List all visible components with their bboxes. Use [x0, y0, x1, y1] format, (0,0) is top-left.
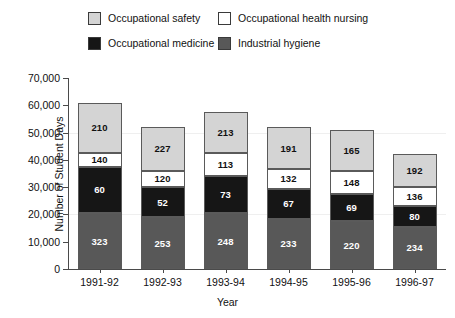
y-axis-tick — [63, 160, 68, 161]
bar-segment[interactable]: 213 — [204, 112, 248, 153]
legend-label-industrial-hygiene: Industrial hygiene — [238, 37, 320, 50]
legend-item-occupational-health-nursing: Occupational health nursing — [218, 12, 368, 25]
x-axis-tick-label: 1992-93 — [143, 276, 182, 288]
bar-segment[interactable]: 191 — [267, 127, 311, 169]
x-axis-tick-label: 1994-95 — [269, 276, 308, 288]
gridline — [69, 133, 446, 134]
bar-segment[interactable]: 233 — [267, 219, 311, 269]
bar-group[interactable]: 25352120227 — [141, 127, 185, 269]
bar-segment[interactable]: 323 — [78, 213, 122, 269]
y-axis-title-wrap: Number of Student Days — [0, 78, 18, 269]
bar-segment[interactable]: 227 — [141, 127, 185, 171]
bar-segment[interactable]: 132 — [267, 169, 311, 188]
bar-segment[interactable]: 73 — [204, 176, 248, 213]
legend-label-occupational-medicine: Occupational medicine — [108, 37, 214, 50]
y-axis-tick — [63, 133, 68, 134]
bar-segment[interactable]: 52 — [141, 187, 185, 217]
bar-group[interactable]: 24873113213 — [204, 112, 248, 269]
y-axis-tick-label: 10,000 — [28, 236, 60, 248]
legend-item-occupational-medicine: Occupational medicine — [88, 37, 214, 50]
y-axis-tick-label: 70,000 — [28, 72, 60, 84]
bar-segment[interactable]: 140 — [78, 153, 122, 167]
bar-group[interactable]: 23480136192 — [393, 154, 437, 269]
chart-legend: Occupational safety Occupational health … — [88, 12, 448, 60]
chart-root: Occupational safety Occupational health … — [0, 0, 455, 318]
y-axis-tick — [63, 187, 68, 188]
bar-segment[interactable]: 210 — [78, 103, 122, 153]
bar-segment[interactable]: 220 — [330, 221, 374, 269]
bar-group[interactable]: 22069148165 — [330, 130, 374, 269]
x-axis-tick — [415, 269, 416, 273]
x-axis-tick-label: 1991-92 — [80, 276, 119, 288]
legend-swatch-occupational-safety — [88, 12, 101, 25]
bar-group[interactable]: 32360140210 — [78, 103, 122, 269]
bar-segment[interactable]: 248 — [204, 213, 248, 269]
x-axis-tick — [226, 269, 227, 273]
y-axis-tick — [63, 269, 68, 270]
gridline — [69, 214, 446, 215]
y-axis-tick — [63, 242, 68, 243]
bar-segment[interactable]: 113 — [204, 153, 248, 176]
bar-segment[interactable]: 67 — [267, 189, 311, 219]
x-axis-title: Year — [0, 296, 455, 308]
bar-group[interactable]: 23367132191 — [267, 127, 311, 269]
y-axis-line — [68, 78, 69, 269]
bar-segment[interactable]: 69 — [330, 194, 374, 221]
legend-label-occupational-health-nursing: Occupational health nursing — [238, 12, 368, 25]
legend-swatch-industrial-hygiene — [218, 37, 231, 50]
x-axis-tick — [289, 269, 290, 273]
x-axis-tick-label: 1995-96 — [332, 276, 371, 288]
y-axis-tick-label: 60,000 — [28, 99, 60, 111]
bar-segment[interactable]: 192 — [393, 154, 437, 187]
x-axis-tick — [352, 269, 353, 273]
y-axis-tick — [63, 105, 68, 106]
bar-segment[interactable]: 136 — [393, 187, 437, 206]
bar-segment[interactable]: 80 — [393, 206, 437, 226]
legend-swatch-occupational-medicine — [88, 37, 101, 50]
bar-segment[interactable]: 253 — [141, 217, 185, 269]
y-axis-tick — [63, 214, 68, 215]
y-axis-tick-label: 30,000 — [28, 181, 60, 193]
bar-segment[interactable]: 120 — [141, 171, 185, 187]
x-axis-tick-label: 1993-94 — [206, 276, 245, 288]
y-axis-tick-label: 40,000 — [28, 154, 60, 166]
y-axis-tick — [63, 78, 68, 79]
legend-item-occupational-safety: Occupational safety — [88, 12, 200, 25]
bar-segment[interactable]: 234 — [393, 227, 437, 269]
y-axis-tick-label: 20,000 — [28, 208, 60, 220]
legend-item-industrial-hygiene: Industrial hygiene — [218, 37, 320, 50]
y-axis-tick-label: 0 — [54, 263, 60, 275]
bar-segment[interactable]: 148 — [330, 171, 374, 194]
x-axis-tick-label: 1996-97 — [395, 276, 434, 288]
legend-swatch-occupational-health-nursing — [218, 12, 231, 25]
bar-segment[interactable]: 60 — [78, 167, 122, 213]
y-axis-tick-label: 50,000 — [28, 127, 60, 139]
x-axis-tick — [100, 269, 101, 273]
plot-area: 010,00020,00030,00040,00050,00060,00070,… — [68, 78, 446, 269]
bar-segment[interactable]: 165 — [330, 130, 374, 171]
legend-label-occupational-safety: Occupational safety — [108, 12, 200, 25]
x-axis-line — [68, 269, 446, 270]
x-axis-tick — [163, 269, 164, 273]
